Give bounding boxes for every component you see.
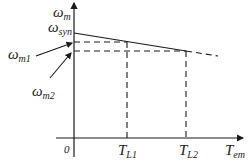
w-m1-label: ωm1	[8, 46, 31, 64]
characteristic-extension	[186, 51, 218, 56]
T-L2-label: TL2	[179, 142, 198, 160]
torque-speed-diagram: ωm ωsyn ωm1 ωm2 0 TL1 TL2 Tem	[0, 0, 251, 162]
characteristic-line	[74, 33, 186, 51]
origin-label: 0	[64, 143, 70, 155]
T-L1-label: TL1	[118, 142, 137, 160]
x-axis-label: Tem	[225, 142, 245, 160]
w-m2-label: ωm2	[32, 83, 55, 101]
w-m1-pointer	[36, 43, 72, 56]
w-m2-pointer	[50, 53, 71, 78]
